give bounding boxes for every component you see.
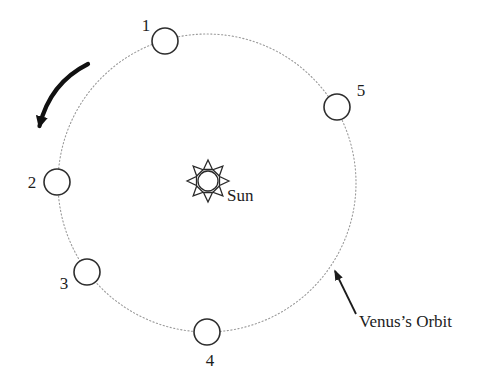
sun-ray <box>187 177 197 186</box>
position-label: 4 <box>206 351 215 370</box>
orbit-label: Venus’s Orbit <box>359 312 452 331</box>
venus-circle <box>152 28 178 54</box>
venus-position-4: 4 <box>194 319 220 370</box>
sun-disc <box>198 171 218 191</box>
sun-label: Sun <box>227 186 254 205</box>
sun-symbol <box>187 160 229 202</box>
venus-position-3: 3 <box>60 259 100 293</box>
venus-circle <box>44 169 70 195</box>
venus-orbit-diagram: Sun 1 2 3 4 5 Venus’s Orbit <box>0 0 480 382</box>
venus-circle <box>74 259 100 285</box>
sun-ray <box>204 193 213 203</box>
position-label: 3 <box>60 274 69 293</box>
venus-position-1: 1 <box>142 16 178 54</box>
sun-ray <box>204 160 213 170</box>
position-label: 1 <box>142 16 151 35</box>
venus-orbit-figure: Sun 1 2 3 4 5 Venus’s Orbit <box>0 0 480 382</box>
orbit-direction-arrow-icon <box>40 64 89 126</box>
venus-circle <box>194 319 220 345</box>
venus-circle <box>324 94 350 120</box>
position-label: 5 <box>357 81 366 100</box>
sun-ray <box>220 177 230 186</box>
venus-position-2: 2 <box>28 169 70 195</box>
venus-position-5: 5 <box>324 81 365 120</box>
orbit-pointer-arrow-icon <box>335 271 356 314</box>
position-label: 2 <box>28 173 37 192</box>
